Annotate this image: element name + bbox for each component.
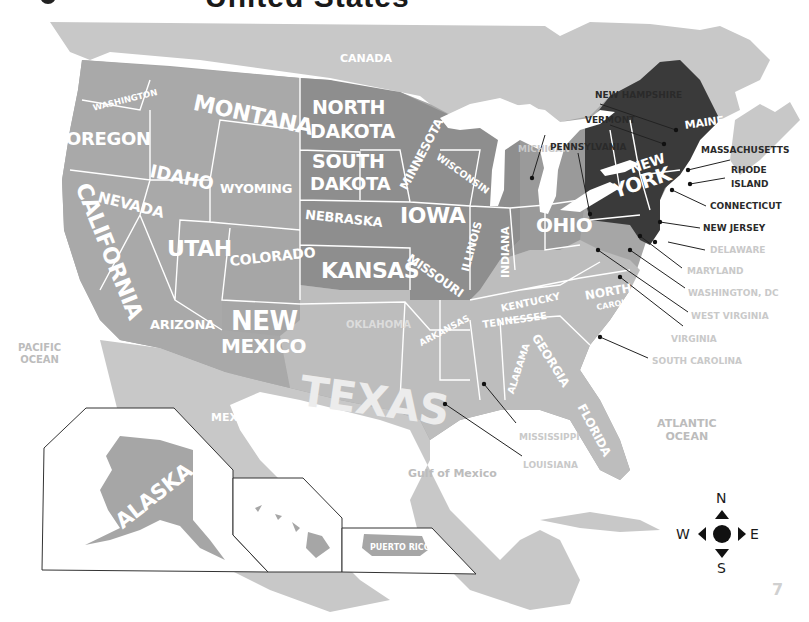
atlantic-line2: OCEAN	[657, 430, 717, 443]
callout-island: ISLAND	[731, 179, 769, 189]
state-south-dakota-1: SOUTH	[312, 152, 385, 171]
label-mexico: MEXICO	[211, 411, 259, 424]
compass-west: W	[676, 526, 690, 542]
callout-vermont: VERMONT	[585, 115, 635, 125]
compass-center-dot-icon	[713, 525, 731, 543]
state-north-dakota-1: NORTH	[312, 98, 385, 117]
state-arizona: ARIZONA	[150, 318, 215, 331]
state-iowa: IOWA	[400, 205, 465, 227]
state-new-mexico-1: NEW	[231, 308, 298, 334]
pacific-line1: PACIFIC	[18, 342, 61, 354]
state-oregon: OREGON	[66, 130, 151, 148]
label-atlantic-ocean: ATLANTIC OCEAN	[657, 417, 717, 443]
cuba-land	[540, 512, 660, 532]
label-canada: CANADA	[340, 52, 392, 65]
label-gulf-of-mexico: Gulf of Mexico	[408, 467, 497, 480]
state-hawaii: HAWAII	[273, 490, 306, 498]
page-number: 7	[772, 580, 783, 599]
callout-rhode: RHODE	[731, 165, 767, 175]
callout-delaware: DELAWARE	[710, 245, 765, 255]
compass-south: S	[717, 560, 726, 576]
state-north-dakota-2: DAKOTA	[310, 122, 395, 141]
callout-mississippi: MISSISSIPPI	[519, 432, 580, 442]
compass-rose: N W E S	[676, 490, 766, 586]
state-kansas: KANSAS	[321, 260, 419, 282]
state-south-dakota-2: DAKOTA	[310, 175, 390, 193]
callout-washington-dc: WASHINGTON, DC	[688, 288, 779, 298]
state-ohio: OHIO	[536, 215, 592, 235]
callout-louisiana: LOUISIANA	[523, 460, 578, 470]
state-indiana: INDIANA	[500, 227, 511, 278]
callout-pennsylvania: PENNSYLVANIA	[550, 142, 626, 152]
state-wyoming: WYOMING	[220, 182, 292, 195]
callout-west-virginia: WEST VIRGINIA	[691, 311, 769, 321]
callout-connecticut: CONNECTICUT	[710, 201, 782, 211]
compass-east: E	[750, 526, 759, 542]
state-puerto-rico: PUERTO RICO	[370, 544, 430, 552]
state-utah: UTAH	[167, 238, 232, 260]
pacific-line2: OCEAN	[18, 354, 61, 366]
callout-massachusetts: MASSACHUSETTS	[701, 145, 790, 155]
callout-south-carolina: SOUTH CAROLINA	[652, 356, 742, 366]
callout-new-jersey: NEW JERSEY	[703, 223, 765, 233]
label-pacific-ocean: PACIFIC OCEAN	[18, 342, 61, 366]
state-new-mexico-2: MEXICO	[221, 336, 306, 356]
atlantic-line1: ATLANTIC	[657, 417, 717, 430]
callout-virginia: VIRGINIA	[671, 334, 717, 344]
state-oklahoma: OKLAHOMA	[346, 320, 411, 330]
callout-new-hampshire: NEW HAMPSHIRE	[595, 90, 682, 100]
map-page: United States	[0, 0, 809, 622]
callout-maryland: MARYLAND	[687, 266, 744, 276]
